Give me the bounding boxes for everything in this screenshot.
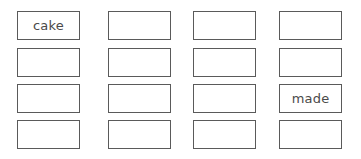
word-box-r1-c4[interactable] [279,11,342,40]
word-box-r2-c2[interactable] [108,48,171,77]
word-box-r1-c3[interactable] [193,11,256,40]
word-box-r3-c1[interactable] [17,84,80,113]
word-box-r3-c3[interactable] [193,84,256,113]
word-box-r1-c1[interactable]: cake [17,11,80,40]
word-box-r3-c4[interactable]: made [279,84,342,113]
word-box-r4-c2[interactable] [108,120,171,149]
word-box-r4-c3[interactable] [193,120,256,149]
word-box-r3-c2[interactable] [108,84,171,113]
word-box-r2-c3[interactable] [193,48,256,77]
word-box-r2-c4[interactable] [279,48,342,77]
word-box-r1-c2[interactable] [108,11,171,40]
word-box-r4-c4[interactable] [279,120,342,149]
word-box-r2-c1[interactable] [17,48,80,77]
word-box-grid: cake made [0,0,361,159]
word-box-r4-c1[interactable] [17,120,80,149]
